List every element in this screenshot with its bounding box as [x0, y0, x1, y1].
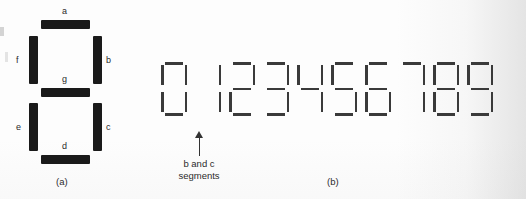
- digit-9-segment-c: [491, 92, 494, 112]
- figure-container: a f b g e c d (a) b and c segments (: [0, 0, 526, 199]
- digit-3-segment-a: [267, 62, 285, 65]
- seven-segment-digit-9: [467, 62, 493, 116]
- seven-segment-digit-1: [195, 62, 221, 116]
- segment-d-label: d: [62, 142, 67, 151]
- digit-5-segment-a: [335, 62, 353, 65]
- seven-segment-digit-3: [263, 62, 289, 116]
- digit-5-segment-c: [355, 92, 358, 112]
- digit-3-segment-c: [287, 92, 290, 112]
- digit-6-segment-a: [369, 62, 387, 65]
- digit-8-segment-b: [457, 65, 460, 85]
- digit-9-segment-g: [471, 88, 489, 91]
- edge-artifact-lower: [5, 52, 8, 62]
- digit-6-segment-e: [365, 92, 368, 112]
- digit-4-segment-g: [301, 88, 319, 91]
- digit-3-segment-g: [267, 88, 285, 91]
- digit-8-segment-d: [437, 113, 455, 116]
- digit-5-segment-d: [335, 113, 353, 116]
- seven-segment-digit-5: [331, 62, 357, 116]
- digit-6-segment-d: [369, 113, 387, 116]
- digit-8-segment-g: [437, 88, 455, 91]
- digit-9-segment-a: [471, 62, 489, 65]
- digit-8-segment-e: [433, 92, 436, 112]
- seven-segment-digit-8: [433, 62, 459, 116]
- digit-9-segment-b: [491, 65, 494, 85]
- segment-a-label: a: [62, 7, 67, 16]
- digit-7-segment-a: [403, 62, 421, 65]
- segment-g-label: g: [62, 75, 67, 84]
- digit-0-segment-f: [161, 65, 164, 85]
- seven-segment-digit-4: [297, 62, 323, 116]
- digit-9-segment-d: [471, 113, 489, 116]
- digit-5-segment-f: [331, 65, 334, 85]
- digit-1-segment-c: [219, 92, 222, 112]
- segment-f-label: f: [16, 56, 19, 65]
- panel-a-caption: (a): [56, 177, 68, 187]
- annotation-text-line2: segments: [178, 170, 219, 182]
- digit-6-segment-g: [369, 88, 387, 91]
- digit-5-segment-g: [335, 88, 353, 91]
- annotation-text-line1: b and c: [178, 158, 219, 170]
- digit-0-segment-d: [165, 113, 183, 116]
- digit-0-segment-b: [185, 65, 188, 85]
- digit-2-segment-e: [229, 92, 232, 112]
- annotation-text: b and c segments: [178, 158, 219, 181]
- digit-3-segment-b: [287, 65, 290, 85]
- digit-8-segment-a: [437, 62, 455, 65]
- digit-2-segment-b: [253, 65, 256, 85]
- segment-b-label: b: [106, 56, 111, 65]
- segment-c-bar: [93, 103, 102, 151]
- digit-8-segment-c: [457, 92, 460, 112]
- seven-segment-digit-2: [229, 62, 255, 116]
- digit-2-segment-d: [233, 113, 251, 116]
- segment-d-bar: [41, 155, 90, 164]
- digit-6-segment-c: [389, 92, 392, 112]
- segment-f-bar: [29, 36, 38, 84]
- digit-2-segment-a: [233, 62, 251, 65]
- annotation-arrow-line: [199, 137, 200, 156]
- segment-b-bar: [93, 36, 102, 84]
- digit-0-segment-c: [185, 92, 188, 112]
- digit-8-segment-f: [433, 65, 436, 85]
- seven-segment-digit-7: [399, 62, 425, 116]
- panel-b-caption: (b): [327, 177, 339, 187]
- digit-3-segment-d: [267, 113, 285, 116]
- segment-c-label: c: [106, 123, 111, 132]
- digit-9-segment-f: [467, 65, 470, 85]
- seven-segment-digit-6: [365, 62, 391, 116]
- digit-1-segment-b: [219, 65, 222, 85]
- digit-2-segment-g: [233, 88, 251, 91]
- digit-7-segment-c: [423, 92, 426, 112]
- digit-0-segment-e: [161, 92, 164, 112]
- digit-4-segment-b: [321, 65, 324, 85]
- seven-segment-digit-0: [161, 62, 187, 116]
- edge-artifact-top: [0, 27, 4, 36]
- digit-6-segment-f: [365, 65, 368, 85]
- segment-e-bar: [29, 103, 38, 151]
- segment-a-bar: [41, 20, 90, 29]
- segment-e-label: e: [16, 123, 21, 132]
- digit-4-segment-f: [297, 65, 300, 85]
- digit-7-segment-b: [423, 65, 426, 85]
- digit-0-segment-a: [165, 62, 183, 65]
- segment-g-bar: [41, 88, 90, 97]
- digit-4-segment-c: [321, 92, 324, 112]
